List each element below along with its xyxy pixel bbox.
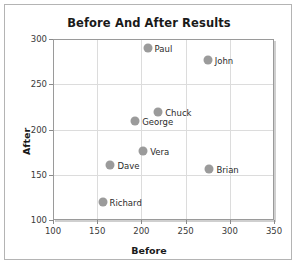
x-tick-label: 100 xyxy=(45,226,61,236)
data-point-label: John xyxy=(215,56,233,66)
y-tick-label: 150 xyxy=(23,170,47,180)
x-tick-mark xyxy=(186,220,187,224)
x-tick-label: 250 xyxy=(177,226,193,236)
y-tick-mark xyxy=(49,84,53,85)
data-point[interactable] xyxy=(143,44,152,53)
gridline-horizontal xyxy=(53,130,274,131)
data-point-label: Paul xyxy=(155,44,173,54)
chart-title: Before And After Results xyxy=(5,16,293,30)
y-tick-label: 100 xyxy=(23,215,47,225)
data-point-label: Brian xyxy=(216,165,238,175)
x-tick-label: 150 xyxy=(89,226,105,236)
data-point-label: Vera xyxy=(150,147,169,157)
gridline-horizontal xyxy=(53,84,274,85)
y-tick-mark xyxy=(49,39,53,40)
plot-area xyxy=(53,39,274,220)
data-point[interactable] xyxy=(131,117,140,126)
x-tick-mark xyxy=(141,220,142,224)
x-tick-label: 350 xyxy=(266,226,282,236)
data-point[interactable] xyxy=(106,160,115,169)
y-tick-label: 300 xyxy=(23,34,47,44)
data-point[interactable] xyxy=(98,197,107,206)
data-point-label: Dave xyxy=(117,161,139,171)
data-point[interactable] xyxy=(154,108,163,117)
x-tick-mark xyxy=(53,220,54,224)
data-point-label: George xyxy=(142,117,173,127)
y-axis-title: After xyxy=(21,128,32,155)
data-point[interactable] xyxy=(205,165,214,174)
x-tick-mark xyxy=(274,220,275,224)
x-tick-mark xyxy=(230,220,231,224)
x-tick-label: 300 xyxy=(222,226,238,236)
chart-frame: Before And After Results 100150200250300… xyxy=(4,4,292,260)
x-tick-label: 200 xyxy=(133,226,149,236)
x-axis-title: Before xyxy=(5,245,293,256)
data-point-label: Richard xyxy=(110,198,142,208)
y-tick-mark xyxy=(49,220,53,221)
y-tick-mark xyxy=(49,130,53,131)
data-point[interactable] xyxy=(139,147,148,156)
gridline-horizontal xyxy=(53,175,274,176)
x-tick-mark xyxy=(97,220,98,224)
y-tick-mark xyxy=(49,175,53,176)
data-point[interactable] xyxy=(203,55,212,64)
y-tick-label: 250 xyxy=(23,79,47,89)
